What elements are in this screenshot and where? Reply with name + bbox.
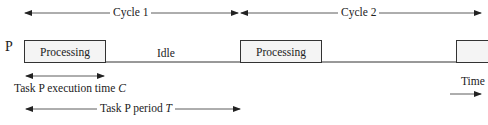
execution-time-symbol: C: [118, 82, 126, 94]
processing-block-2: Processing: [240, 40, 322, 63]
execution-time-label: Task P execution time C: [14, 83, 126, 95]
processing-label: Processing: [256, 46, 306, 58]
idle-label: Idle: [157, 48, 175, 60]
time-axis-label: Time: [461, 76, 485, 88]
processing-label: Processing: [40, 46, 90, 58]
cycle-1-label: Cycle 1: [110, 7, 151, 19]
process-label: P: [5, 40, 13, 54]
cycle-2-label: Cycle 2: [338, 7, 379, 19]
processing-block-3-partial: [456, 40, 488, 63]
period-symbol: T: [166, 102, 172, 114]
processing-block-1: Processing: [24, 40, 106, 63]
period-label: Task P period T: [97, 103, 175, 115]
